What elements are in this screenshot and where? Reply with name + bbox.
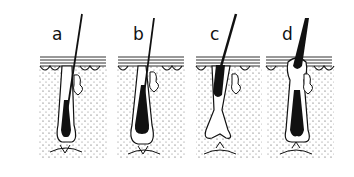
- panel-label-d: d: [282, 26, 293, 43]
- panel-a-follicle: [38, 14, 108, 158]
- panel-d-follicle: [266, 18, 334, 158]
- panel-label-b: b: [133, 26, 144, 43]
- panel-label-a: a: [52, 26, 62, 43]
- panel-c-follicle: [196, 14, 262, 158]
- panel-label-c: c: [210, 26, 219, 43]
- panel-b-follicle: [116, 18, 186, 158]
